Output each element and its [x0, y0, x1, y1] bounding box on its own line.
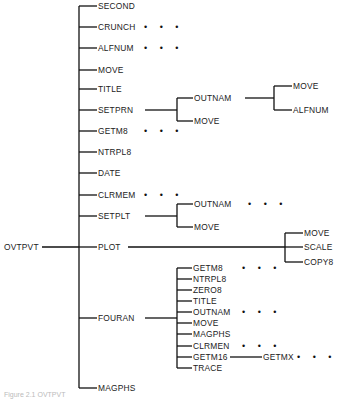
node-title: TITLE	[193, 296, 217, 306]
node-fouran: FOURAN	[98, 313, 135, 323]
node-outnam: OUTNAM	[194, 199, 232, 209]
node-alfnum: ALFNUM	[293, 105, 329, 115]
ellipsis-icon: • • •	[242, 307, 281, 317]
ellipsis-icon: • • •	[248, 199, 287, 209]
node-setprn: SETPRN	[98, 105, 133, 115]
tree-connectors	[0, 0, 343, 402]
node-scale: SCALE	[304, 242, 332, 252]
node-move: MOVE	[193, 318, 218, 328]
ellipsis-icon: • • •	[144, 190, 183, 200]
ellipsis-icon: • • •	[144, 126, 183, 136]
ellipsis-icon: • • •	[242, 263, 281, 273]
node-outnam: OUTNAM	[193, 307, 231, 317]
node-getm16: GETM16	[193, 352, 228, 362]
node-copy8: COPY8	[304, 257, 333, 267]
node-getm8: GETM8	[193, 263, 223, 273]
node-outnam: OUTNAM	[194, 93, 232, 103]
node-clrmem: CLRMEM	[98, 190, 136, 200]
ellipsis-icon: • • •	[144, 22, 183, 32]
node-move: MOVE	[293, 81, 318, 91]
node-crunch: CRUNCH	[98, 22, 136, 32]
node-ntrpl8: NTRPL8	[193, 274, 226, 284]
node-second: SECOND	[98, 1, 135, 11]
node-trace: TRACE	[193, 363, 222, 373]
node-move: MOVE	[304, 228, 329, 238]
node-move: MOVE	[98, 65, 123, 75]
node-magphs: MAGPHS	[193, 329, 231, 339]
node-getm8: GETM8	[98, 126, 128, 136]
node-move: MOVE	[194, 222, 219, 232]
ellipsis-icon: • • •	[242, 341, 281, 351]
ellipsis-icon: • • •	[144, 43, 183, 53]
node-zero8: ZERO8	[193, 285, 222, 295]
node-date: DATE	[98, 168, 121, 178]
node-setplt: SETPLT	[98, 211, 130, 221]
node-clrmen: CLRMEN	[193, 341, 230, 351]
ellipsis-icon: • • •	[297, 352, 336, 362]
node-magphs: MAGPHS	[98, 383, 136, 393]
node-alfnum: ALFNUM	[98, 43, 134, 53]
node-move: MOVE	[194, 116, 219, 126]
node-plot: PLOT	[98, 242, 121, 252]
node-getmx: GETMX	[263, 352, 294, 362]
node-title: TITLE	[98, 84, 122, 94]
root-node-ovtpvt: OVTPVT	[4, 242, 39, 252]
figure-caption: Figure 2.1 OVTPVT	[4, 391, 65, 398]
node-ntrpl8: NTRPL8	[98, 147, 131, 157]
